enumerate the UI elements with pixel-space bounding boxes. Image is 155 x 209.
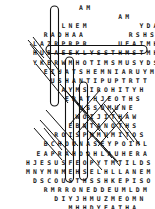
grid-letter: S xyxy=(67,177,74,186)
grid-letter: M xyxy=(95,131,102,140)
grid-letter: S xyxy=(92,140,99,149)
grid-letter: O xyxy=(99,104,106,113)
grid-letter: T xyxy=(141,77,148,86)
grid-letter: U xyxy=(113,186,120,195)
letter-row: RADHAA RSHSAB xyxy=(0,31,155,40)
grid-blank xyxy=(17,168,24,177)
grid-blank xyxy=(17,49,24,58)
grid-letter: M xyxy=(109,159,116,168)
grid-letter: H xyxy=(74,204,81,209)
grid-letter: H xyxy=(63,77,70,86)
grid-letter: A xyxy=(78,95,85,104)
grid-letter: C xyxy=(46,177,53,186)
letter-row: EIUATSHEMNIARUYM xyxy=(0,68,155,77)
grid-letter: C xyxy=(49,140,56,149)
grid-blank xyxy=(92,31,99,40)
grid-letter: S xyxy=(74,131,81,140)
grid-letter: A xyxy=(117,13,124,22)
grid-blank xyxy=(60,13,67,22)
grid-letter: R xyxy=(67,40,74,49)
grid-blank xyxy=(99,4,106,13)
grid-letter: T xyxy=(117,159,124,168)
grid-letter: M xyxy=(109,195,116,204)
grid-blank xyxy=(102,22,109,31)
grid-blank xyxy=(70,104,77,113)
grid-letter: Y xyxy=(131,86,138,95)
grid-letter: H xyxy=(117,49,124,58)
grid-letter: S xyxy=(102,49,109,58)
grid-letter: N xyxy=(78,140,85,149)
grid-letter: N xyxy=(67,22,74,31)
grid-letter: H xyxy=(117,113,124,122)
grid-letter: S xyxy=(38,177,45,186)
grid-letter: O xyxy=(109,122,116,131)
grid-letter: H xyxy=(81,177,88,186)
grid-blank xyxy=(99,31,106,40)
grid-letter: N xyxy=(102,122,109,131)
grid-blank xyxy=(49,4,56,13)
grid-blank xyxy=(31,22,38,31)
grid-blank xyxy=(63,4,70,13)
grid-blank xyxy=(28,31,35,40)
grid-blank xyxy=(10,59,17,68)
grid-blank xyxy=(38,131,45,140)
grid-letter: A xyxy=(106,150,113,159)
grid-letter: U xyxy=(70,140,77,149)
grid-letter: M xyxy=(106,104,113,113)
grid-letter: H xyxy=(74,168,81,177)
grid-letter: S xyxy=(95,177,102,186)
grid-letter: E xyxy=(60,49,67,58)
grid-letter: M xyxy=(141,186,148,195)
grid-letter: M xyxy=(24,168,31,177)
grid-letter: U xyxy=(102,131,109,140)
grid-letter: S xyxy=(88,177,95,186)
grid-blank xyxy=(14,77,21,86)
grid-blank xyxy=(124,22,131,31)
grid-blank xyxy=(74,13,81,22)
grid-letter: P xyxy=(88,159,95,168)
grid-letter: Y xyxy=(106,140,113,149)
grid-blank xyxy=(24,195,31,204)
grid-blank xyxy=(35,77,42,86)
grid-letter: P xyxy=(74,40,81,49)
grid-blank xyxy=(46,195,53,204)
grid-letter: A xyxy=(70,31,77,40)
grid-blank xyxy=(92,4,99,13)
grid-letter: S xyxy=(92,104,99,113)
grid-letter: T xyxy=(109,49,116,58)
grid-blank xyxy=(10,49,17,58)
grid-letter: M xyxy=(131,195,138,204)
grid-letter: R xyxy=(53,40,60,49)
grid-letter: E xyxy=(67,49,74,58)
grid-letter: I xyxy=(49,68,56,77)
grid-letter: O xyxy=(60,131,67,140)
grid-letter: R xyxy=(134,150,141,159)
grid-letter: I xyxy=(131,177,138,186)
grid-letter: A xyxy=(70,77,77,86)
grid-letter: A xyxy=(109,204,116,209)
grid-letter: H xyxy=(102,177,109,186)
grid-letter: O xyxy=(124,195,131,204)
grid-letter: A xyxy=(78,31,85,40)
grid-letter: Y xyxy=(31,59,38,68)
grid-letter: Y xyxy=(88,49,95,58)
grid-blank xyxy=(14,4,21,13)
grid-letter: L xyxy=(117,168,124,177)
grid-letter: I xyxy=(102,113,109,122)
grid-blank xyxy=(134,4,141,13)
grid-blank xyxy=(31,13,38,22)
letter-row: RMRRONEDDEUMLDM xyxy=(7,186,149,195)
grid-blank xyxy=(17,113,24,122)
grid-blank xyxy=(35,4,42,13)
grid-blank xyxy=(10,22,17,31)
grid-letter: M xyxy=(46,168,53,177)
grid-letter: E xyxy=(85,186,92,195)
grid-letter: R xyxy=(56,150,63,159)
grid-letter: I xyxy=(117,86,124,95)
grid-blank xyxy=(38,22,45,31)
grid-blank xyxy=(109,22,116,31)
grid-letter: B xyxy=(46,49,53,58)
grid-letter: O xyxy=(102,86,109,95)
grid-letter: T xyxy=(102,159,109,168)
grid-letter: Z xyxy=(102,195,109,204)
